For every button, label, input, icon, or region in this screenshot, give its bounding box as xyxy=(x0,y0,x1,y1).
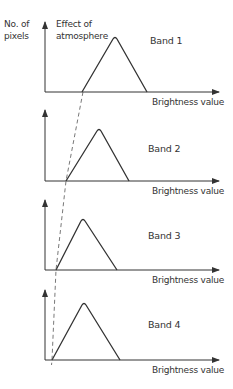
annotation-line1: Effect of xyxy=(56,19,92,30)
band-2-label: Band 2 xyxy=(148,143,180,154)
band-3-label: Band 3 xyxy=(148,230,180,241)
histogram-panel-band-4 xyxy=(45,290,219,360)
histogram-diagram: No. of pixels Effect of atmosphere Band … xyxy=(0,0,233,389)
x-axis-label-band-3: Brightness value xyxy=(152,275,224,286)
annotation-line2: atmosphere xyxy=(56,31,108,42)
histogram-curve xyxy=(52,304,120,361)
atmosphere-offset-dashed-line xyxy=(52,92,84,365)
x-axis-label-band-1: Brightness value xyxy=(152,97,224,108)
band-1-label: Band 1 xyxy=(150,35,182,46)
y-axis-label-line1: No. of xyxy=(4,19,29,30)
histogram-curve xyxy=(56,220,117,271)
histogram-panel-band-3 xyxy=(45,200,219,270)
band-4-label: Band 4 xyxy=(148,319,180,330)
histogram-panel-band-2 xyxy=(45,110,219,181)
x-axis-label-band-2: Brightness value xyxy=(152,186,224,197)
histogram-curve xyxy=(66,130,129,182)
y-axis-label-line2: pixels xyxy=(4,31,29,42)
histogram-curve xyxy=(82,38,147,93)
x-axis-label-band-4: Brightness value xyxy=(152,365,224,376)
